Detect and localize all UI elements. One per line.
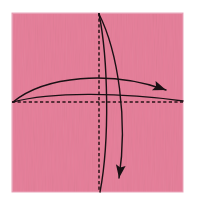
origami-diagram-svg: [0, 0, 198, 212]
origami-diagram-canvas: [0, 0, 198, 212]
